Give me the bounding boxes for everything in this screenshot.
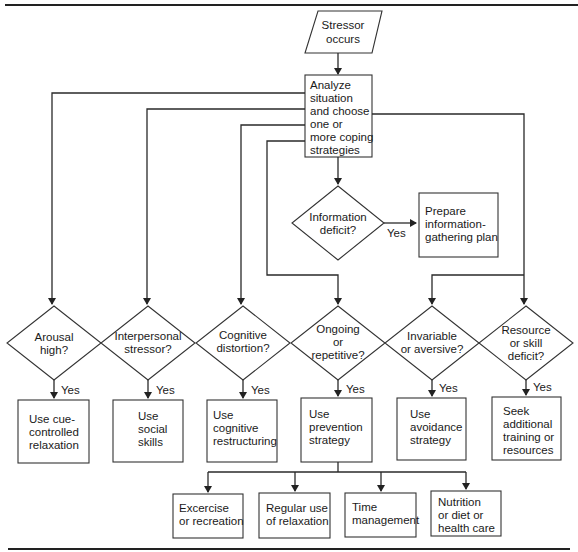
info-action-line-2: information- (425, 218, 486, 230)
analyze-node: Analyze situation and choose one or more… (305, 75, 373, 157)
flowchart: Stressor occurs Analyze situation and ch… (0, 0, 578, 552)
analyze-line-2: situation (310, 92, 353, 104)
info-decision-line-2: deficit? (320, 224, 356, 236)
action-text: Use (309, 408, 329, 420)
action-text: Use (213, 409, 233, 421)
action-text: cognitive (213, 422, 258, 434)
decision-text: Invariable (407, 330, 457, 342)
decision-text: deficit? (508, 350, 544, 362)
yes-label: Yes (439, 382, 458, 394)
analyze-line-3: and choose (310, 105, 369, 117)
info-action-line-3: gathering plan (425, 231, 498, 243)
info-gathering-node: Prepare information- gathering plan (419, 193, 498, 257)
decision-text: stressor? (124, 343, 171, 355)
decision-invariable: Invariable or aversive? (385, 306, 479, 380)
decision-text: Arousal (35, 331, 74, 343)
action-text: Use cue- (29, 413, 75, 425)
info-decision-line-1: Information (309, 211, 367, 223)
decision-cognitive: Cognitive distortion? (196, 306, 290, 380)
decision-interpersonal: Interpersonal stressor? (101, 306, 195, 380)
action-text: skills (138, 436, 163, 448)
yes-label: Yes (61, 384, 80, 396)
decision-text: or skill (510, 337, 543, 349)
decision-text: Interpersonal (114, 330, 181, 342)
action-text: prevention (309, 421, 363, 433)
start-line-2: occurs (326, 33, 360, 45)
decision-arousal: Arousal high? (7, 306, 101, 380)
decision-text: repetitive? (311, 349, 364, 361)
analyze-line-6: strategies (310, 144, 360, 156)
option-text: of relaxation (266, 515, 329, 527)
analyze-line-1: Analyze (310, 79, 351, 91)
action-cognitive-restructuring: Use cognitive restructuring (207, 400, 277, 462)
option-nutrition: Nutrition or diet or health care (431, 491, 501, 536)
action-text: Use (138, 410, 158, 422)
decision-text: Resource (501, 324, 550, 336)
yes-label: Yes (533, 381, 552, 393)
option-text: health care (438, 522, 495, 534)
decision-ongoing: Ongoing or repetitive? (291, 306, 385, 380)
decision-text: Cognitive (219, 329, 267, 341)
option-text: Regular use (266, 502, 328, 514)
analyze-line-5: more coping (310, 131, 373, 143)
decision-text: distortion? (216, 342, 269, 354)
yes-label: Yes (156, 384, 175, 396)
action-text: Use (410, 408, 430, 420)
option-text: or diet or (438, 509, 484, 521)
action-text: social (138, 423, 167, 435)
action-text: restructuring (213, 435, 277, 447)
start-line-1: Stressor (322, 19, 365, 31)
action-avoidance-strategy: Use avoidance strategy (397, 398, 466, 460)
decision-text: or aversive? (401, 343, 464, 355)
action-text: strategy (410, 434, 451, 446)
action-text: relaxation (29, 439, 79, 451)
action-seek-training: Seek additional training or resources (492, 397, 561, 460)
action-text: training or (503, 431, 554, 443)
action-text: controlled (29, 426, 79, 438)
option-text: Excercise (179, 502, 229, 514)
option-text: Nutrition (438, 496, 481, 508)
info-deficit-decision: Information deficit? (292, 186, 384, 260)
decision-text: or (333, 336, 343, 348)
analyze-line-4: one or (310, 118, 343, 130)
option-regular-relaxation: Regular use of relaxation (259, 493, 330, 538)
option-text: Time (352, 501, 377, 513)
action-text: strategy (309, 434, 350, 446)
decision-resource: Resource or skill deficit? (479, 306, 573, 380)
yes-label: Yes (346, 383, 365, 395)
action-prevention-strategy: Use prevention strategy (301, 398, 372, 462)
action-text: additional (503, 418, 552, 430)
option-exercise: Excercise or recreation (173, 494, 244, 538)
connector-cognitive (241, 125, 305, 304)
option-text: management (352, 514, 420, 526)
start-node: Stressor occurs (305, 11, 382, 53)
action-text: resources (503, 444, 554, 456)
info-yes-label: Yes (387, 227, 406, 239)
decision-text: high? (40, 344, 68, 356)
yes-label: Yes (251, 384, 270, 396)
connector-invariable (432, 275, 524, 304)
action-text: Seek (503, 405, 529, 417)
decision-text: Ongoing (316, 323, 359, 335)
option-text: or recreation (179, 515, 244, 527)
info-action-line-1: Prepare (425, 205, 466, 217)
option-time-management: Time management (345, 493, 420, 537)
action-text: avoidance (410, 421, 462, 433)
action-cue-controlled-relaxation: Use cue- controlled relaxation (18, 400, 89, 463)
action-social-skills: Use social skills (113, 400, 183, 462)
